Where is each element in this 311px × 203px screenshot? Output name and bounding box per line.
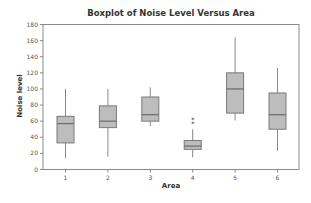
x-tick-label: 1 [64, 174, 68, 181]
y-tick-label: 140 [27, 53, 39, 60]
iqr-box [227, 73, 244, 113]
boxes-layer: ** [57, 37, 286, 158]
y-tick-label: 160 [27, 37, 39, 44]
y-tick-label: 80 [30, 101, 38, 108]
box-2 [99, 89, 116, 157]
x-tick-label: 3 [148, 174, 152, 181]
iqr-box [57, 116, 74, 143]
boxplot-chart: Boxplot of Noise Level Versus Area 02040… [0, 0, 311, 203]
y-axis-label: Noise level [16, 74, 24, 117]
iqr-box [184, 141, 201, 150]
y-tick-label: 0 [34, 166, 38, 173]
x-tick-label: 2 [106, 174, 110, 181]
y-tick-label: 100 [27, 85, 39, 92]
y-axis: 020406080100120140160180 [27, 21, 43, 173]
plot-frame [43, 25, 299, 170]
box-6 [269, 68, 286, 151]
x-tick-label: 5 [233, 174, 237, 181]
x-tick-label: 6 [276, 174, 280, 181]
box-3 [142, 87, 159, 126]
y-tick-label: 120 [27, 69, 39, 76]
iqr-box [269, 93, 286, 129]
box-1 [57, 89, 74, 158]
y-tick-label: 20 [30, 149, 38, 156]
box-5 [227, 37, 244, 120]
plot-area [43, 25, 299, 170]
x-tick-label: 4 [191, 174, 195, 181]
y-tick-label: 180 [27, 21, 39, 28]
iqr-box [99, 106, 116, 128]
box-4: ** [184, 116, 201, 157]
y-tick-label: 40 [30, 133, 38, 140]
chart-title: Boxplot of Noise Level Versus Area [87, 8, 255, 18]
y-tick-label: 60 [30, 117, 38, 124]
x-axis: 123456 [64, 170, 280, 181]
x-axis-label: Area [162, 182, 181, 190]
iqr-box [142, 97, 159, 121]
outlier-marker: * [191, 116, 195, 123]
